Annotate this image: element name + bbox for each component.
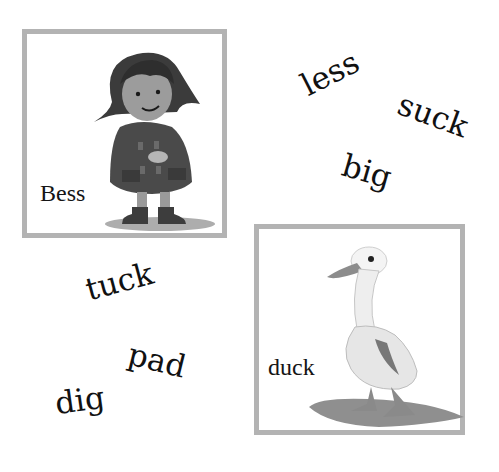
duck-illustration-icon (299, 239, 469, 434)
word-pad: pad (125, 338, 189, 382)
bess-label: Bess (40, 181, 85, 205)
duck-picture-card: duck (254, 224, 465, 435)
word-tuck: tuck (82, 258, 156, 306)
word-dig: dig (53, 382, 106, 420)
duck-label: duck (268, 355, 315, 379)
bess-picture-card: Bess (22, 29, 227, 238)
word-suck: suck (394, 89, 472, 143)
girl-illustration-icon (82, 42, 222, 237)
word-big: big (339, 150, 395, 193)
word-less: less (296, 46, 364, 101)
